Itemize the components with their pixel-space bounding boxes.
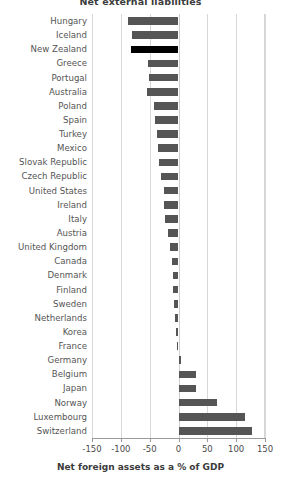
- category-label: Switzerland: [37, 424, 87, 438]
- bar-row[interactable]: Japan: [0, 381, 281, 395]
- category-label: Netherlands: [35, 311, 87, 325]
- bar[interactable]: [173, 272, 179, 280]
- category-label: Poland: [58, 99, 87, 113]
- category-label: Norway: [54, 396, 87, 410]
- bar-row[interactable]: Hungary: [0, 14, 281, 28]
- bar[interactable]: [149, 74, 178, 82]
- bar[interactable]: [157, 130, 179, 138]
- bar-row[interactable]: Turkey: [0, 127, 281, 141]
- tick-mark-100: [236, 438, 237, 442]
- category-label: Spain: [63, 113, 87, 127]
- bar[interactable]: [164, 187, 179, 195]
- bar-row[interactable]: United Kingdom: [0, 240, 281, 254]
- bar[interactable]: [179, 413, 245, 421]
- category-label: Japan: [63, 381, 87, 395]
- bar-row[interactable]: United States: [0, 184, 281, 198]
- category-label: Greece: [56, 56, 87, 70]
- bar-row[interactable]: Portugal: [0, 71, 281, 85]
- tick-mark-0: [179, 438, 180, 442]
- category-label: Austria: [57, 226, 87, 240]
- bar[interactable]: [132, 31, 178, 39]
- bar[interactable]: [168, 229, 178, 237]
- category-label: Canada: [54, 254, 87, 268]
- bar[interactable]: [179, 371, 196, 379]
- bar-row[interactable]: Italy: [0, 212, 281, 226]
- category-label: Belgium: [52, 367, 87, 381]
- chart-title: Net external liabilities: [0, 0, 281, 5]
- bar[interactable]: [173, 286, 178, 294]
- category-label: Portugal: [51, 71, 87, 85]
- category-label: France: [58, 339, 87, 353]
- category-label: Turkey: [59, 127, 87, 141]
- bar-row[interactable]: Netherlands: [0, 311, 281, 325]
- bar-row[interactable]: Belgium: [0, 367, 281, 381]
- bar-row[interactable]: Spain: [0, 113, 281, 127]
- tick-label--100: -100: [111, 444, 130, 454]
- tick-label--150: -150: [82, 444, 101, 454]
- bar[interactable]: [158, 144, 179, 152]
- category-label: Germany: [48, 353, 88, 367]
- bar-row[interactable]: Slovak Republic: [0, 155, 281, 169]
- tick-mark--100: [121, 438, 122, 442]
- tick-label-150: 150: [257, 444, 273, 454]
- tick-label--50: -50: [143, 444, 157, 454]
- bar[interactable]: [154, 102, 179, 110]
- bar[interactable]: [148, 60, 179, 68]
- bar[interactable]: [177, 342, 179, 350]
- bar-row[interactable]: Greece: [0, 56, 281, 70]
- bar[interactable]: [131, 46, 178, 54]
- category-label: Italy: [68, 212, 87, 226]
- chart-container: Net external liabilities HungaryIcelandN…: [0, 0, 281, 489]
- bar[interactable]: [164, 201, 178, 209]
- bar[interactable]: [172, 258, 179, 266]
- tick-mark--50: [150, 438, 151, 442]
- bar-row[interactable]: Korea: [0, 325, 281, 339]
- bar-row[interactable]: France: [0, 339, 281, 353]
- bar-row[interactable]: Iceland: [0, 28, 281, 42]
- bar[interactable]: [179, 399, 217, 407]
- bar[interactable]: [179, 427, 253, 435]
- bar-row[interactable]: Austria: [0, 226, 281, 240]
- bar-row[interactable]: Denmark: [0, 268, 281, 282]
- bar-row[interactable]: Ireland: [0, 198, 281, 212]
- bar[interactable]: [147, 88, 178, 96]
- bar[interactable]: [179, 385, 197, 393]
- bar[interactable]: [128, 17, 179, 25]
- category-label: Sweden: [53, 297, 87, 311]
- bar[interactable]: [176, 328, 179, 336]
- category-label: Denmark: [48, 268, 88, 282]
- bar-row[interactable]: Canada: [0, 254, 281, 268]
- bar[interactable]: [159, 159, 178, 167]
- category-label: Australia: [49, 85, 87, 99]
- bar-row[interactable]: Sweden: [0, 297, 281, 311]
- bar-row[interactable]: Czech Republic: [0, 169, 281, 183]
- bar-row[interactable]: Norway: [0, 396, 281, 410]
- bar[interactable]: [170, 243, 178, 251]
- category-label: Czech Republic: [22, 169, 87, 183]
- bar-row[interactable]: Finland: [0, 283, 281, 297]
- category-label: United Kingdom: [18, 240, 87, 254]
- category-label: Hungary: [50, 14, 87, 28]
- bar-row[interactable]: Switzerland: [0, 424, 281, 438]
- tick-mark--150: [92, 438, 93, 442]
- bar[interactable]: [175, 314, 178, 322]
- bar[interactable]: [155, 116, 179, 124]
- bar-row[interactable]: Luxembourg: [0, 410, 281, 424]
- tick-mark-150: [265, 438, 266, 442]
- bar-row[interactable]: Mexico: [0, 141, 281, 155]
- category-label: Luxembourg: [33, 410, 87, 424]
- bar-row[interactable]: Australia: [0, 85, 281, 99]
- x-axis-title: Net foreign assets as a % of GDP: [0, 462, 281, 472]
- bar[interactable]: [165, 215, 178, 223]
- bar[interactable]: [174, 300, 178, 308]
- bar-row[interactable]: Germany: [0, 353, 281, 367]
- category-label: Finland: [56, 283, 87, 297]
- tick-label-0: 0: [176, 444, 181, 454]
- bar[interactable]: [161, 173, 178, 181]
- bar[interactable]: [179, 356, 181, 364]
- category-label: Mexico: [57, 141, 87, 155]
- tick-label-50: 50: [202, 444, 213, 454]
- bar-row[interactable]: Poland: [0, 99, 281, 113]
- category-label: Ireland: [57, 198, 87, 212]
- bar-row[interactable]: New Zealand: [0, 42, 281, 56]
